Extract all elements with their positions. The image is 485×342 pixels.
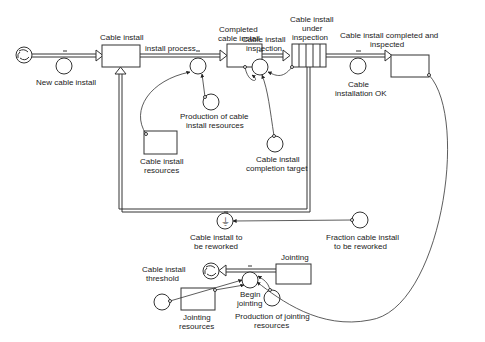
source-cloud-icon [16, 47, 32, 63]
stock-cable-install-under-inspection[interactable] [292, 44, 326, 67]
label-fraction-2: to be reworked [334, 242, 387, 252]
label-completion-target-2: completion target [246, 164, 307, 174]
label-jointing-resources-2: resources [179, 322, 214, 332]
label-cable-install: Cable install [100, 33, 144, 43]
valve-install-process[interactable] [190, 58, 206, 74]
label-production-jointing-2: resources [254, 321, 289, 331]
stock-cable-install-completed-inspected[interactable] [391, 55, 429, 77]
stock-cable-install-resources[interactable] [144, 131, 177, 154]
aux-production-jointing-resources[interactable] [264, 290, 280, 306]
label-jointing: Jointing [281, 253, 309, 263]
label-inspection-2: inspection [246, 44, 282, 54]
valve-begin-jointing[interactable] [242, 272, 258, 288]
aux-cable-install-threshold[interactable] [154, 294, 170, 310]
label-production-cable-2: install resources [186, 121, 244, 131]
label-begin-jointing-2: jointing [237, 299, 262, 309]
svg-text:⏚: ⏚ [221, 217, 230, 227]
label-completed-inspected-2: inspected [370, 40, 404, 50]
label-threshold-2: threshold [146, 274, 179, 284]
stock-cable-install[interactable] [102, 45, 140, 67]
stock-jointing[interactable] [276, 264, 311, 284]
label-new-cable-install: New cable install [36, 78, 96, 88]
label-installation-ok-2: installation OK [335, 89, 387, 99]
label-reworked-2: be reworked [194, 242, 238, 252]
aux-cable-install-completion-target[interactable] [267, 136, 283, 152]
valve-cable-installation-ok[interactable] [350, 58, 366, 74]
label-install-process: install process [145, 44, 196, 54]
stock-jointing-resources[interactable] [181, 288, 215, 310]
label-cable-install-resources-2: resources [144, 166, 179, 176]
valve-new-cable-install[interactable] [56, 58, 72, 74]
aux-fraction-cable-install-reworked[interactable] [352, 212, 368, 228]
label-under-inspection-3: inspection [292, 33, 328, 43]
sink-cloud-icon [203, 263, 219, 279]
valve-cable-install-inspection[interactable] [252, 59, 268, 75]
